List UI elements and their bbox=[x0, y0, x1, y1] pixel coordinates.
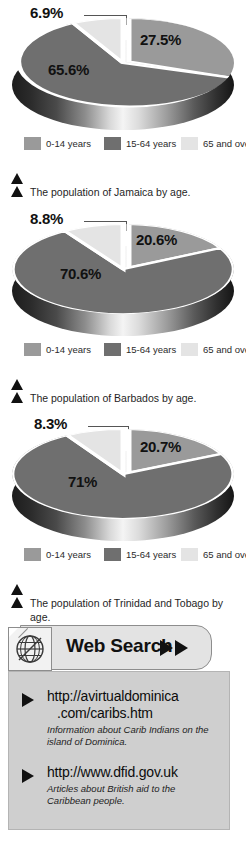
chart-block-trinidad: 8.3% 20.7% 71% 0-14 years 1 bbox=[0, 411, 246, 624]
search-result-url-line1[interactable]: http://www.dfid.gov.uk bbox=[47, 764, 219, 781]
bullet-arrow-icon bbox=[22, 693, 34, 707]
legend-label-0-14: 0-14 years bbox=[46, 138, 91, 149]
legend-item-65-over: 65 and over bbox=[181, 343, 246, 356]
search-result-description: Articles about British aid to the Caribb… bbox=[47, 783, 219, 807]
search-result-url-line2[interactable]: .com/caribs.htm bbox=[47, 705, 219, 722]
caption-text: The population of Barbados by age. bbox=[30, 392, 196, 404]
triangle-marker-icon bbox=[11, 379, 25, 405]
caption-barbados: The population of Barbados by age. bbox=[0, 392, 246, 406]
chart-block-jamaica: 6.9% 27.5% 65.6% bbox=[0, 0, 246, 200]
legend-swatch-15-64 bbox=[104, 548, 121, 561]
pie-graphic bbox=[12, 224, 234, 336]
legend-swatch-65-over bbox=[181, 137, 198, 150]
legend-item-0-14: 0-14 years bbox=[24, 343, 91, 356]
bullet-arrow-icon bbox=[22, 769, 34, 783]
legend-label-15-64: 15-64 years bbox=[126, 138, 176, 149]
legend-trinidad: 0-14 years 15-64 years 65 and over bbox=[0, 546, 246, 570]
caption-text: The population of Jamaica by age. bbox=[30, 186, 191, 198]
legend-swatch-15-64 bbox=[104, 137, 121, 150]
legend-item-15-64: 15-64 years bbox=[104, 137, 176, 150]
web-search-panel: Web Search http://avirtualdominica .com/… bbox=[8, 625, 230, 830]
caption-text: The population of Trinidad and Tobago by… bbox=[30, 597, 223, 623]
search-result-url-row[interactable]: http://avirtualdominica .com/caribs.htm bbox=[19, 688, 219, 722]
legend-label-65-over: 65 and over bbox=[203, 344, 246, 355]
legend-swatch-15-64 bbox=[104, 343, 121, 356]
search-result-url-line1[interactable]: http://avirtualdominica bbox=[47, 688, 219, 705]
legend-item-0-14: 0-14 years bbox=[24, 548, 91, 561]
chart-block-barbados: 8.8% 20.6% 70.6% 0-14 years bbox=[0, 206, 246, 406]
pie-chart-barbados: 8.8% 20.6% 70.6% bbox=[0, 206, 246, 341]
pie-value-0-14: 20.6% bbox=[136, 231, 177, 248]
pie-top-face bbox=[12, 18, 234, 108]
search-result-url-row[interactable]: http://www.dfid.gov.uk bbox=[19, 764, 219, 781]
pie-graphic bbox=[12, 18, 234, 130]
web-search-results: http://avirtualdominica .com/caribs.htm … bbox=[8, 671, 230, 830]
search-result-item[interactable]: http://avirtualdominica .com/caribs.htm … bbox=[19, 688, 219, 748]
pie-chart-jamaica: 6.9% 27.5% 65.6% bbox=[0, 0, 246, 135]
pie-chart-trinidad: 8.3% 20.7% 71% bbox=[0, 411, 246, 546]
pie-top-face bbox=[12, 224, 234, 314]
triangle-marker-icon bbox=[11, 173, 25, 199]
legend-swatch-0-14 bbox=[24, 343, 41, 356]
legend-item-65-over: 65 and over bbox=[181, 548, 246, 561]
legend-swatch-0-14 bbox=[24, 137, 41, 150]
search-result-description: Information about Carib Indians on the i… bbox=[47, 724, 219, 748]
caption-trinidad: The population of Trinidad and Tobago by… bbox=[0, 597, 246, 624]
web-search-icon-box bbox=[8, 627, 52, 671]
legend-label-65-over: 65 and over bbox=[203, 549, 246, 560]
web-search-title: Web Search bbox=[66, 635, 172, 657]
legend-jamaica: 0-14 years 15-64 years 65 and over bbox=[0, 135, 246, 159]
legend-swatch-65-over bbox=[181, 343, 198, 356]
globe-icon bbox=[14, 633, 46, 669]
pie-value-15-64: 70.6% bbox=[60, 265, 101, 282]
web-search-header[interactable]: Web Search bbox=[8, 625, 230, 672]
legend-label-15-64: 15-64 years bbox=[126, 344, 176, 355]
legend-swatch-65-over bbox=[181, 548, 198, 561]
caption-jamaica: The population of Jamaica by age. bbox=[0, 186, 246, 200]
legend-label-0-14: 0-14 years bbox=[46, 344, 91, 355]
legend-barbados: 0-14 years 15-64 years 65 and over bbox=[0, 341, 246, 365]
legend-item-65-over: 65 and over bbox=[181, 137, 246, 150]
legend-label-15-64: 15-64 years bbox=[126, 549, 176, 560]
search-result-item[interactable]: http://www.dfid.gov.uk Articles about Br… bbox=[19, 764, 219, 807]
legend-label-0-14: 0-14 years bbox=[46, 549, 91, 560]
pie-value-15-64: 71% bbox=[68, 473, 97, 490]
legend-item-15-64: 15-64 years bbox=[104, 548, 176, 561]
legend-item-15-64: 15-64 years bbox=[104, 343, 176, 356]
legend-swatch-0-14 bbox=[24, 548, 41, 561]
pie-value-15-64: 65.6% bbox=[48, 61, 89, 78]
legend-item-0-14: 0-14 years bbox=[24, 137, 91, 150]
pie-value-0-14: 27.5% bbox=[140, 31, 181, 48]
pie-graphic bbox=[12, 429, 234, 541]
pie-value-0-14: 20.7% bbox=[140, 438, 181, 455]
triangle-marker-icon bbox=[11, 584, 25, 610]
legend-label-65-over: 65 and over bbox=[203, 138, 246, 149]
pie-top-face bbox=[12, 429, 234, 519]
double-arrow-icon[interactable] bbox=[160, 640, 188, 656]
